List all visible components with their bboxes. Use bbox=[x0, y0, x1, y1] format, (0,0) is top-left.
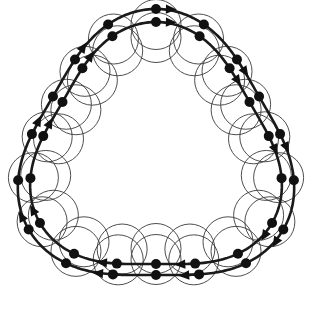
small-circles-layer bbox=[8, 0, 303, 285]
vertex-dot bbox=[151, 259, 161, 269]
vertex-dot bbox=[108, 269, 118, 279]
geometric-diagram-svg bbox=[0, 0, 312, 311]
vertex-dots-layer bbox=[13, 4, 299, 280]
vertex-dot bbox=[278, 225, 288, 235]
vertex-dot bbox=[24, 225, 34, 235]
figure-root bbox=[0, 0, 312, 311]
vertex-dot bbox=[267, 218, 277, 228]
vertex-dot bbox=[107, 31, 117, 41]
arrow-head bbox=[92, 269, 103, 278]
vertex-dot bbox=[57, 97, 67, 107]
vertex-dot bbox=[69, 249, 79, 259]
vertex-dot bbox=[232, 54, 242, 64]
vertex-dot bbox=[35, 218, 45, 228]
vertex-dot bbox=[225, 63, 235, 73]
vertex-dot bbox=[233, 249, 243, 259]
vertex-dot bbox=[264, 131, 274, 141]
arrow-head bbox=[231, 74, 241, 86]
vertex-dot bbox=[112, 259, 122, 269]
vertex-dot bbox=[70, 54, 80, 64]
tangent-circle bbox=[165, 224, 215, 274]
vertex-dot bbox=[61, 258, 71, 268]
vertex-dot bbox=[77, 63, 87, 73]
vertex-dot bbox=[254, 92, 264, 102]
vertex-dot bbox=[195, 31, 205, 41]
vertex-dot bbox=[241, 258, 251, 268]
vertex-dot bbox=[13, 175, 23, 185]
vertex-dot bbox=[289, 175, 299, 185]
vertex-dot bbox=[277, 173, 287, 183]
vertex-dot bbox=[38, 131, 48, 141]
vertex-dot bbox=[151, 17, 161, 27]
arrow-head bbox=[239, 65, 249, 77]
vertex-dot bbox=[245, 97, 255, 107]
vertex-dot bbox=[194, 269, 204, 279]
vertex-dot bbox=[103, 19, 113, 29]
vertex-dot bbox=[151, 4, 161, 14]
vertex-dot bbox=[25, 173, 35, 183]
vertex-dot bbox=[199, 19, 209, 29]
vertex-dot bbox=[48, 92, 58, 102]
main-curve-outer-curve bbox=[18, 9, 294, 275]
vertex-dot bbox=[151, 270, 161, 280]
main-curves-layer bbox=[18, 9, 294, 275]
vertex-dot bbox=[190, 259, 200, 269]
vertex-dot bbox=[27, 129, 37, 139]
vertex-dot bbox=[275, 129, 285, 139]
